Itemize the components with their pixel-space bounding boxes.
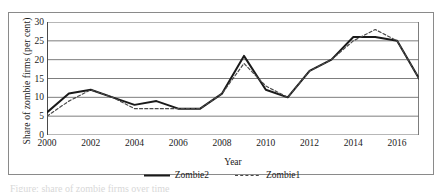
legend-entry-zombie2: Zombie2 [144,170,209,180]
series-line-zombie2 [47,37,419,112]
x-tick-label: 2004 [125,138,144,148]
x-tick-label: 2012 [300,138,319,148]
x-tick-label: 2014 [344,138,363,148]
figure-container: Share of zombie firms (per cent) 0510152… [0,0,442,193]
chart-legend: Zombie2 Zombie1 [9,170,435,180]
y-tick-label: 15 [35,74,45,84]
x-axis-title: Year [47,157,419,167]
y-tick-label: 20 [35,55,45,65]
x-tick-label: 2008 [213,138,232,148]
plot-area: 0510152025302000200220042006200820102012… [47,22,419,135]
y-tick-label: 30 [35,17,45,27]
y-tick-label: 5 [39,111,44,121]
legend-entry-zombie1: Zombie1 [235,170,300,180]
legend-label-zombie2: Zombie2 [175,170,209,180]
y-axis-title: Share of zombie firms (per cent) [22,16,32,146]
legend-label-zombie1: Zombie1 [266,170,300,180]
legend-line-solid-icon [144,172,170,179]
x-tick-label: 2006 [169,138,188,148]
x-tick-label: 2000 [38,138,57,148]
chart-svg [47,22,419,135]
x-tick-label: 2010 [256,138,275,148]
legend-line-dashed-icon [235,172,261,179]
x-tick-label: 2016 [388,138,407,148]
figure-caption-partial: Figure: share of zombie firms over time [10,183,430,192]
y-tick-label: 25 [35,36,45,46]
chart-frame: Share of zombie firms (per cent) 0510152… [8,12,434,175]
x-tick-label: 2002 [81,138,100,148]
y-tick-label: 10 [35,92,45,102]
